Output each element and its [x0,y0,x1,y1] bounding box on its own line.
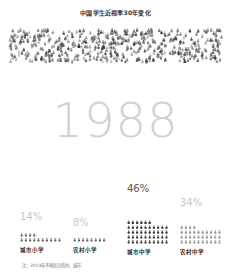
person-icon [56,39,58,43]
person-icon [185,240,187,243]
person-icon [147,41,149,45]
person-icon [132,221,134,224]
person-icon [135,40,137,44]
person-icon [29,35,31,39]
person-icon [71,60,73,64]
person-icon [143,41,145,45]
person-icon [67,47,69,51]
person-icon [189,235,191,238]
person-icon [93,56,95,60]
person-icon [99,238,101,241]
person-icon [136,28,138,32]
footnote: 注：2014年不再区分农村、城市 [22,262,81,268]
person-icon [193,225,195,228]
person-icon [179,59,181,63]
person-icon [98,39,100,43]
person-icon [218,28,220,32]
person-icon [144,230,146,233]
value-label: 14% [20,211,62,223]
person-icon [128,230,130,233]
person-icon [216,59,218,63]
person-icon [165,230,167,233]
person-icon [144,235,146,238]
person-icon [63,31,65,35]
person-icon [89,31,91,35]
person-icon [37,51,39,55]
person-icon [64,51,66,55]
person-icon [105,34,107,38]
person-icon [144,225,146,228]
person-icon [197,39,199,43]
person-icon [25,238,27,241]
person-icon [189,230,191,233]
person-icon [189,225,191,228]
person-icon [136,240,138,243]
person-icon [19,28,21,32]
person-icon [51,58,53,62]
person-icon [152,58,154,62]
person-icon [42,238,44,241]
person-icon [187,59,189,63]
person-icon [42,47,44,51]
person-icon [163,51,165,55]
person-icon [89,49,91,53]
person-icon [185,235,187,238]
person-icon [136,230,138,233]
person-icon [100,30,102,34]
person-icon [153,235,155,238]
group-rural-middle: 34% 农村中学 [180,197,222,256]
person-icon [110,45,112,49]
person-icon [128,221,130,224]
person-icon [85,36,87,40]
person-icon [157,225,159,228]
person-icon [164,31,166,35]
person-icon [189,29,191,33]
person-icon [137,56,139,60]
person-icon [154,40,156,44]
person-icon [210,57,212,61]
person-icon [18,53,20,57]
year-label: 1988 [0,92,231,148]
person-icon [10,34,12,38]
person-icon [161,235,163,238]
person-icon [44,42,46,46]
person-icon [144,49,146,53]
person-icon [189,56,191,60]
person-icon [210,28,212,32]
person-icon [153,225,155,228]
person-icon [110,49,112,53]
person-icon [68,29,70,33]
person-icon [140,240,142,243]
person-icon [128,235,130,238]
person-icon [195,54,197,58]
person-icon [64,56,66,60]
person-icon [171,29,173,33]
person-icon [102,30,104,34]
person-icon [21,51,23,55]
person-icon [161,225,163,228]
value-label: 46% [127,183,169,195]
person-icon [29,233,31,236]
person-icon [197,230,199,233]
person-icon [136,235,138,238]
person-icon [197,58,199,62]
person-icon [17,29,19,33]
person-icon [214,235,216,238]
person-icon [185,230,187,233]
person-icon [67,39,69,43]
person-icon [129,34,131,38]
person-icon [124,29,126,33]
person-icon [140,221,142,224]
person-icon [214,240,216,243]
person-icon [181,230,183,233]
person-icon [86,238,88,241]
person-icon [17,34,19,38]
person-icon [74,238,76,241]
person-icon [173,45,175,49]
person-icon [153,240,155,243]
person-icon [205,56,207,60]
person-icon [157,230,159,233]
person-icon [149,230,151,233]
person-icon [58,238,60,241]
person-icon [132,235,134,238]
